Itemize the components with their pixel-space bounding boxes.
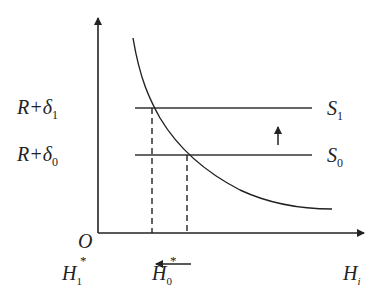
- label-h0-star: H0*: [151, 253, 176, 287]
- downward-curve: [133, 38, 332, 209]
- diagram-canvas: R+δ1 R+δ0 S1 S0 O H1* H0* Hi: [0, 0, 377, 298]
- label-h1-star: H1*: [61, 253, 86, 287]
- x-axis-label: Hi: [342, 262, 361, 287]
- origin-label: O: [78, 230, 92, 252]
- label-s1: S1: [327, 97, 343, 123]
- label-s0: S0: [327, 144, 343, 170]
- label-r-delta-0: R+δ0: [16, 143, 58, 169]
- label-r-delta-1: R+δ1: [16, 96, 58, 122]
